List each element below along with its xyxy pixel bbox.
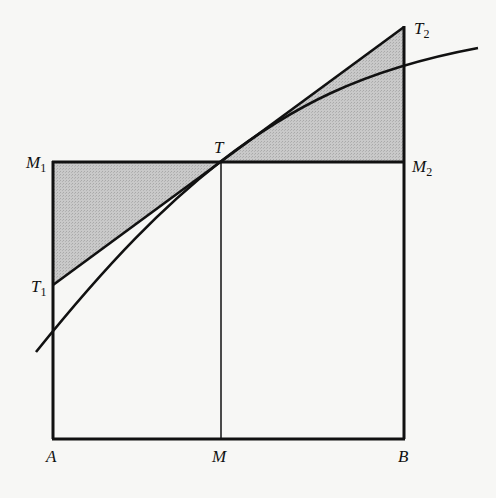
label-T1: T1 (31, 278, 46, 298)
label-M1: M1 (26, 154, 46, 174)
label-T1-sub: 1 (40, 285, 46, 299)
diagram-svg (0, 0, 496, 498)
label-M1-main: M (26, 153, 40, 172)
label-M2-sub: 2 (426, 165, 432, 179)
label-M-main: M (212, 447, 226, 466)
label-M2: M2 (412, 158, 432, 178)
label-A-main: A (46, 447, 56, 466)
label-T-main: T (214, 138, 223, 157)
label-T2: T2 (414, 20, 429, 40)
label-T: T (214, 139, 223, 156)
diagram-canvas: M1 M2 T T1 T2 A M B (0, 0, 496, 498)
label-M2-main: M (412, 157, 426, 176)
label-A: A (46, 448, 56, 465)
label-B-main: B (398, 447, 408, 466)
label-M1-sub: 1 (40, 161, 46, 175)
label-B: B (398, 448, 408, 465)
label-T2-sub: 2 (423, 27, 429, 41)
label-M: M (212, 448, 226, 465)
